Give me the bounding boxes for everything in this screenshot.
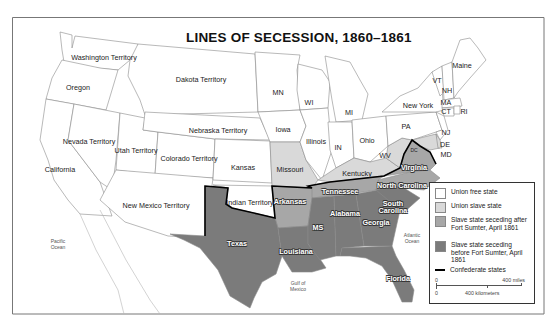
label-md: MD (440, 151, 451, 159)
swatch-union-free (435, 188, 446, 199)
label-alabama: Alabama (330, 210, 360, 218)
label-south-carolina: South Carolina (378, 200, 408, 214)
label-arkansas: Arkansas (274, 198, 306, 206)
legend-item-after-sumter: Slave state seceding after Fort Sumter, … (435, 216, 527, 231)
swatch-union-slave (435, 202, 446, 213)
swatch-before-sumter (435, 241, 446, 252)
label-kansas: Kansas (231, 164, 255, 172)
label-ms: MS (313, 224, 324, 232)
label-florida: Florida (386, 275, 410, 283)
scale-bar: 0 400 miles 0 400 kilometers (435, 277, 525, 299)
label-maine: Maine (452, 62, 472, 70)
region-mn (255, 52, 300, 112)
legend-item-union-free: Union free state (435, 188, 498, 199)
label-new-york: New York (403, 102, 433, 110)
legend-item-before-sumter: Slave state seceding before Fort Sumter,… (435, 241, 527, 264)
label-dc: DC (410, 147, 417, 153)
label-mi: MI (345, 109, 353, 117)
label-in: IN (334, 144, 341, 152)
region-kansas (213, 139, 272, 183)
map-legend: Union free state Union slave state Slave… (429, 182, 535, 304)
label-de: DE (440, 141, 450, 149)
region-ri (454, 106, 460, 114)
legend-item-union-slave: Union slave state (435, 202, 502, 213)
label-gulf-of-mexico: Gulf of Mexico (287, 280, 309, 292)
label-ohio: Ohio (359, 137, 374, 145)
label-indian-territory: Indian Territory (226, 199, 273, 207)
label-illinois: Illinois (306, 138, 326, 146)
label-new-mexico: New Mexico Territory (123, 202, 190, 210)
label-virginia: Virginia (401, 164, 427, 172)
label-iowa: Iowa (275, 126, 290, 134)
label-wv: WV (379, 152, 391, 160)
label-wi: WI (305, 99, 314, 107)
label-nh: NH (442, 87, 452, 95)
label-ct: CT (441, 108, 451, 116)
label-pacific-ocean: Pacific Ocean (48, 238, 68, 250)
label-ma: MA (441, 99, 452, 107)
label-nevada: Nevada Territory (63, 138, 116, 146)
label-atlantic-ocean: Atlantic Ocean (402, 232, 422, 244)
map-title: LINES OF SECESSION, 1860–1861 (186, 30, 412, 45)
label-mn: MN (272, 89, 283, 97)
label-north-carolina: North Carolina (377, 182, 427, 190)
label-pa: PA (401, 123, 410, 131)
label-california: California (45, 166, 75, 174)
swatch-confederate-line (435, 269, 445, 271)
label-nj: NJ (442, 129, 451, 137)
label-oregon: Oregon (66, 84, 90, 92)
label-missouri: Missouri (277, 166, 304, 174)
label-ri: RI (460, 108, 467, 116)
label-utah: Utah Territory (114, 147, 157, 155)
label-kentucky: Kentucky (342, 170, 372, 178)
label-dakota: Dakota Territory (176, 76, 227, 84)
label-tennessee: Tennessee (322, 188, 359, 196)
label-texas: Texas (227, 240, 247, 248)
legend-item-confederate: Confederate states (435, 266, 506, 274)
label-georgia: Georgia (362, 219, 389, 227)
label-louisiana: Louisiana (279, 248, 313, 256)
label-nebraska: Nebraska Territory (189, 127, 248, 135)
label-vt: VT (432, 77, 441, 85)
region-arkansas[interactable] (272, 186, 312, 228)
label-washington: Washington Territory (71, 54, 137, 62)
swatch-after-sumter (435, 216, 446, 227)
label-colorado: Colorado Territory (161, 155, 218, 163)
